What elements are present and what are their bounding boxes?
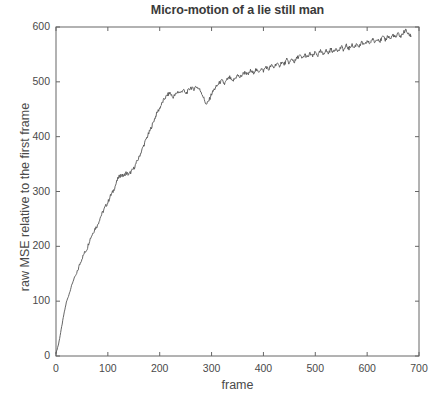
x-tick-label: 200 [140,362,180,374]
x-tick-label: 600 [347,362,387,374]
x-tick-label: 300 [192,362,232,374]
x-tick-label: 400 [243,362,283,374]
data-series-line [56,29,411,354]
y-tick-label: 400 [10,130,50,142]
y-tick-label: 500 [10,75,50,87]
series-line [56,29,411,354]
axes-box [56,27,419,356]
y-tick-label: 200 [10,239,50,251]
x-tick-label: 700 [399,362,439,374]
x-tick-label: 500 [295,362,335,374]
x-tick-label: 100 [88,362,128,374]
plot-area [0,0,447,408]
y-tick-label: 300 [10,185,50,197]
chart-figure: Micro-motion of a lie still man raw MSE … [0,0,447,408]
y-tick-label: 600 [10,20,50,32]
y-tick-label: 100 [10,294,50,306]
y-tick-label: 0 [10,349,50,361]
axis-ticks [56,27,419,356]
x-tick-label: 0 [36,362,76,374]
